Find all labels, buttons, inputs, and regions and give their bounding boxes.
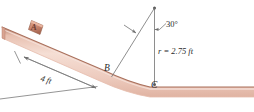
radius-tick-mark: [124, 25, 136, 33]
slanted-radius-line: [112, 8, 155, 77]
label-point-B: B: [104, 64, 110, 74]
label-angle-30: 30°: [166, 20, 178, 29]
dimension-ext-left: [15, 51, 21, 64]
angle-leader-line: [155, 24, 166, 30]
ramp-left-end: [2, 27, 5, 40]
label-radius: r = 2.75 ft: [158, 47, 193, 56]
figure-canvas: [0, 0, 254, 112]
mechanics-figure: A B C 30° r = 2.75 ft 4 ft: [0, 0, 254, 112]
dimension-ext-right: [0, 87, 98, 100]
label-block-A: A: [31, 23, 37, 32]
ramp-surface: [2, 27, 254, 97]
label-point-C: C: [151, 81, 157, 91]
